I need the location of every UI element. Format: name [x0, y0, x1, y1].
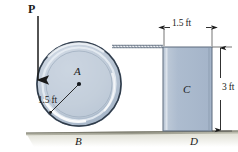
label-wheel-center-A: A: [74, 66, 81, 77]
label-block-C: C: [183, 84, 190, 95]
label-force-P: P: [28, 3, 35, 15]
label-contact-B: B: [75, 136, 82, 147]
label-block-height: 3 ft: [222, 83, 234, 93]
figure-canvas: [0, 0, 238, 152]
label-block-width: 1.5 ft: [172, 19, 191, 29]
ground-shadow: [26, 133, 238, 147]
mechanics-figure: P A 1.5 ft B C D 1.5 ft 3 ft: [0, 0, 238, 152]
wheel: [36, 41, 122, 127]
dimension-width: [164, 26, 212, 46]
label-wheel-radius: 1.5 ft: [38, 96, 57, 106]
cord: [112, 45, 163, 48]
label-contact-D: D: [190, 136, 198, 147]
